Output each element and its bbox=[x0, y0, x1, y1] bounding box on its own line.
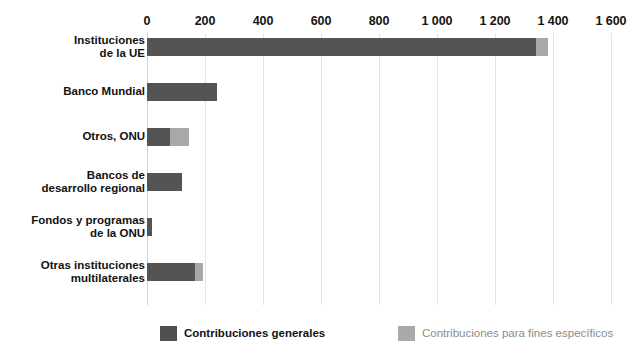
x-axis-tick-label: 400 bbox=[253, 14, 274, 29]
x-axis-tick-label: 1 000 bbox=[422, 14, 453, 29]
horizontal-bar-chart: 02004006008001 0001 2001 4001 600 Instit… bbox=[0, 0, 637, 347]
chart-row: Bancos de desarrollo regional bbox=[0, 168, 637, 213]
category-label: Fondos y programas de la ONU bbox=[0, 214, 145, 241]
bar-segment-general bbox=[147, 218, 152, 236]
stacked-bar bbox=[147, 128, 189, 146]
bar-segment-specific bbox=[170, 128, 189, 146]
chart-row: Fondos y programas de la ONU bbox=[0, 213, 637, 258]
legend-item[interactable]: Contribuciones generales bbox=[160, 324, 325, 342]
bar-segment-general bbox=[147, 38, 536, 56]
bar-segment-specific bbox=[195, 263, 203, 281]
legend-swatch-general bbox=[160, 326, 177, 341]
x-axis-tick-labels: 02004006008001 0001 2001 4001 600 bbox=[0, 14, 637, 30]
x-axis-tick-label: 0 bbox=[144, 14, 151, 29]
category-label: Otros, ONU bbox=[0, 130, 145, 144]
category-label: Instituciones de la UE bbox=[0, 34, 145, 61]
x-axis-tick-label: 800 bbox=[369, 14, 390, 29]
category-label: Otras instituciones multilaterales bbox=[0, 259, 145, 286]
bar-segment-specific bbox=[536, 38, 548, 56]
stacked-bar bbox=[147, 38, 548, 56]
category-label: Bancos de desarrollo regional bbox=[0, 169, 145, 196]
chart-legend: Contribuciones generalesContribuciones p… bbox=[0, 324, 637, 347]
chart-row: Banco Mundial bbox=[0, 78, 637, 123]
legend-swatch-specific bbox=[398, 326, 415, 341]
bar-segment-general bbox=[147, 263, 195, 281]
bar-segment-general bbox=[147, 173, 182, 191]
x-axis-tick-label: 600 bbox=[311, 14, 332, 29]
stacked-bar bbox=[147, 173, 182, 191]
stacked-bar bbox=[147, 83, 217, 101]
legend-item[interactable]: Contribuciones para fines específicos bbox=[398, 324, 613, 342]
chart-row: Instituciones de la UE bbox=[0, 33, 637, 78]
chart-row: Otros, ONU bbox=[0, 123, 637, 168]
stacked-bar bbox=[147, 263, 203, 281]
legend-label: Contribuciones para fines específicos bbox=[422, 326, 613, 340]
bar-segment-general bbox=[147, 83, 217, 101]
x-axis-tick-label: 1 400 bbox=[538, 14, 569, 29]
plot-area: Instituciones de la UEBanco MundialOtros… bbox=[0, 33, 637, 305]
legend-label: Contribuciones generales bbox=[184, 326, 325, 340]
x-axis-tick-label: 1 600 bbox=[596, 14, 627, 29]
chart-row: Otras instituciones multilaterales bbox=[0, 258, 637, 303]
bar-segment-general bbox=[147, 128, 170, 146]
x-axis-tick-label: 200 bbox=[195, 14, 216, 29]
x-axis-tick-label: 1 200 bbox=[480, 14, 511, 29]
category-label: Banco Mundial bbox=[0, 85, 145, 99]
stacked-bar bbox=[147, 218, 152, 236]
